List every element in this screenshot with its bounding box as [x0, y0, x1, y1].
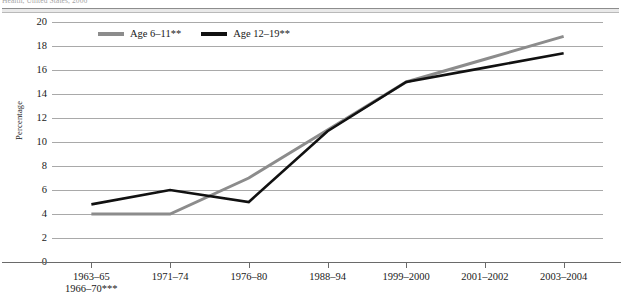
legend-item: Age 12–19**	[201, 28, 290, 39]
chart-figure: Health, United States, 2006 Percentage 0…	[0, 0, 621, 304]
x-tick-label-line1: 1999–2000	[383, 271, 430, 282]
x-tick	[406, 262, 407, 268]
x-tick	[249, 262, 250, 268]
y-tick-label: 14	[37, 89, 48, 100]
legend-swatch-icon	[201, 32, 227, 36]
y-tick-label: 2	[42, 233, 47, 244]
y-tick-label: 12	[37, 113, 48, 124]
x-tick	[91, 262, 92, 268]
x-tick	[564, 262, 565, 268]
series-line	[91, 36, 563, 214]
header-rule	[2, 8, 619, 13]
x-tick-label-line1: 2001–2002	[461, 271, 508, 282]
x-tick-label: 1999–2000	[383, 271, 430, 283]
y-axis-title: Percentage	[14, 101, 24, 140]
x-tick-label: 1988–94	[309, 271, 346, 283]
x-axis: 1963–651966–70***1971–741976–801988–9419…	[52, 262, 603, 302]
x-tick-label-line1: 1971–74	[152, 271, 189, 282]
x-tick	[485, 262, 486, 268]
y-tick-label: 4	[42, 209, 47, 220]
y-tick-label: 8	[42, 161, 47, 172]
y-tick-label: 16	[37, 65, 48, 76]
x-tick-label-line1: 2003–2004	[540, 271, 587, 282]
x-tick-label: 1963–651966–70***	[65, 271, 118, 295]
chart-legend: Age 6–11**Age 12–19**	[98, 28, 290, 39]
x-tick-label-line1: 1976–80	[230, 271, 267, 282]
x-tick-label-line1: 1988–94	[309, 271, 346, 282]
y-tick-label: 18	[37, 41, 48, 52]
legend-label: Age 12–19**	[233, 28, 290, 39]
x-tick-label: 1971–74	[152, 271, 189, 283]
source-caption: Health, United States, 2006	[2, 0, 87, 5]
y-tick-label: 20	[37, 17, 48, 28]
x-axis-rule	[2, 262, 621, 263]
series-lines	[52, 22, 603, 262]
x-tick-label: 2003–2004	[540, 271, 587, 283]
x-tick-label-line2: 1966–70***	[65, 283, 118, 295]
x-tick	[328, 262, 329, 268]
x-tick-label-line1: 1963–65	[73, 271, 110, 282]
x-tick-label: 1976–80	[230, 271, 267, 283]
legend-item: Age 6–11**	[98, 28, 181, 39]
x-tick-label: 2001–2002	[461, 271, 508, 283]
legend-label: Age 6–11**	[130, 28, 181, 39]
x-tick	[170, 262, 171, 268]
y-tick-label: 6	[42, 185, 47, 196]
plot-area: 02468101214161820	[52, 22, 603, 262]
legend-swatch-icon	[98, 32, 124, 36]
y-tick-label: 10	[37, 137, 48, 148]
